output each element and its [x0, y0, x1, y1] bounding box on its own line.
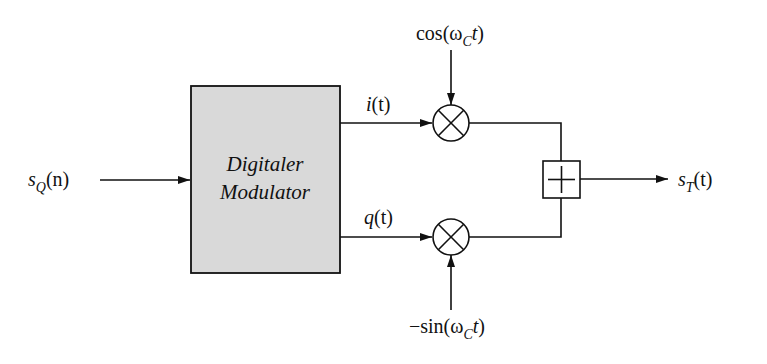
output-signal-label: sT(t) — [678, 168, 712, 195]
adder-icon — [543, 161, 580, 198]
input-signal-label: sQ(n) — [28, 168, 69, 195]
upper-mixer-output-line — [469, 123, 561, 161]
lower-mixer-output-line — [469, 198, 561, 237]
q-signal-label: q(t) — [364, 206, 393, 229]
sin-carrier-label: −sin(ωCt) — [409, 315, 485, 342]
i-signal-label: i(t) — [366, 93, 390, 116]
iq-modulator-diagram: sQ(n) Digitaler Modulator i(t) q(t) cos(… — [0, 0, 767, 364]
cos-carrier-label: cos(ωCt) — [416, 22, 484, 49]
modulator-label-line1: Digitaler — [226, 152, 305, 176]
mixer-icon-lower — [433, 219, 469, 255]
modulator-label-line2: Modulator — [219, 180, 311, 204]
mixer-icon-upper — [433, 105, 469, 141]
